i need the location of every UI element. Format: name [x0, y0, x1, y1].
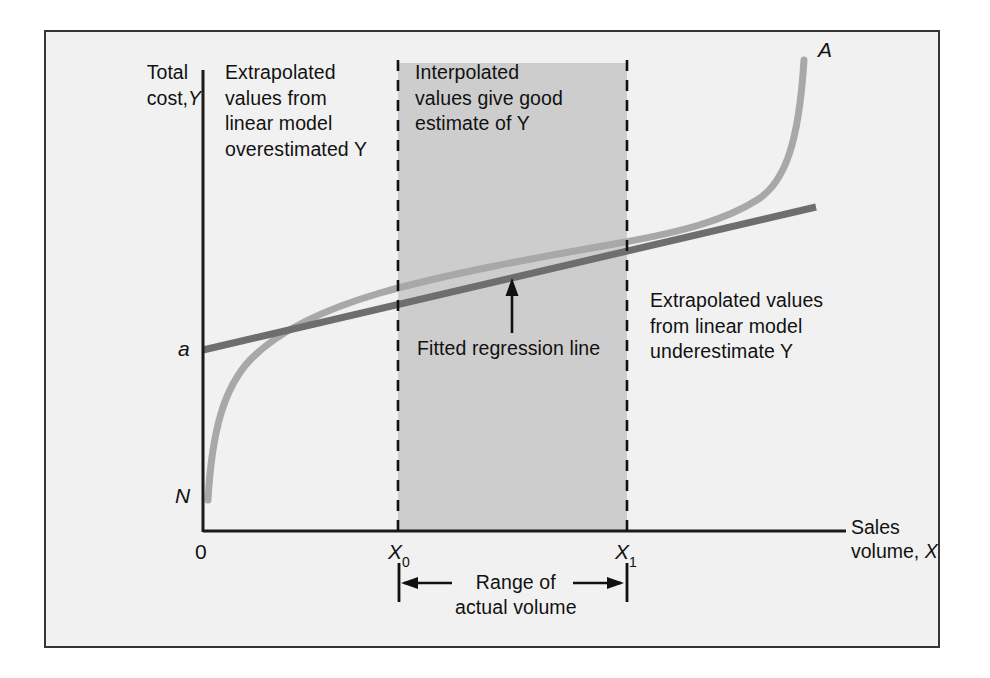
- y-axis-title-line2: cost, Y: [147, 87, 188, 109]
- y-axis-title-line1: Total: [147, 61, 188, 83]
- x-axis-title-line2: volume, X: [851, 540, 938, 562]
- annotation-extrapolated-right: Extrapolated values from linear model un…: [650, 288, 823, 365]
- tick-label-x0-subscript: 0: [402, 554, 410, 570]
- range-label-line2: actual volume: [455, 596, 577, 618]
- tick-label-origin: 0: [195, 540, 207, 564]
- annotation-range-of-actual-volume: Range ofactual volume: [455, 570, 577, 620]
- x-axis-title-line1: Sales: [851, 516, 900, 538]
- tick-label-x1-subscript: 1: [629, 554, 637, 570]
- x-axis-title: Salesvolume, X: [851, 515, 938, 563]
- label-curve-end-a-upper: A: [818, 38, 832, 62]
- tick-label-x0: X0: [388, 540, 410, 567]
- figure-root: Totalcost, Y Salesvolume, X Extrapolated…: [0, 0, 990, 678]
- range-arrow-left-head: [401, 577, 418, 589]
- y-axis-title: Totalcost, Y: [28, 60, 188, 111]
- label-curve-start-n: N: [175, 484, 190, 508]
- annotation-interpolated: Interpolated values give good estimate o…: [415, 60, 563, 137]
- tick-label-x1-base: X: [615, 540, 629, 563]
- annotation-fitted-regression-line: Fitted regression line: [417, 336, 600, 362]
- annotation-extrapolated-left: Extrapolated values from linear model ov…: [225, 60, 367, 162]
- label-intercept-a: a: [178, 337, 190, 361]
- tick-label-x0-base: X: [388, 540, 402, 563]
- range-label-line1: Range of: [476, 571, 556, 593]
- range-arrow-right-head: [607, 577, 624, 589]
- tick-label-x1: X1: [615, 540, 637, 567]
